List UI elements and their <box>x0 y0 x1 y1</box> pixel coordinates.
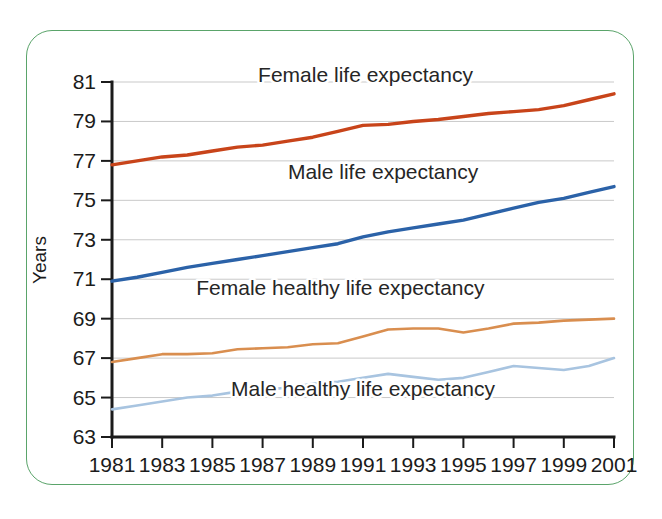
x-tick-label: 1981 <box>89 453 136 476</box>
x-tick-label: 1999 <box>540 453 587 476</box>
y-axis-title-label: Years <box>29 236 50 284</box>
y-axis-tick-labels: 63656769717375777981 <box>73 70 96 448</box>
line-chart: 63656769717375777981 1981198319851987198… <box>0 0 662 519</box>
y-tick-label: 81 <box>73 70 96 93</box>
x-tick-label: 1991 <box>340 453 387 476</box>
y-tick-label: 65 <box>73 386 96 409</box>
y-tick-label: 71 <box>73 267 96 290</box>
y-tick-label: 63 <box>73 425 96 448</box>
series-label-3: Male healthy life expectancy <box>231 377 495 400</box>
series-line-0 <box>112 94 614 165</box>
x-tick-label: 1993 <box>390 453 437 476</box>
y-tick-label: 69 <box>73 307 96 330</box>
y-tick-label: 73 <box>73 228 96 251</box>
x-tick-label: 1989 <box>289 453 336 476</box>
x-axis-tick-labels: 1981198319851987198919911993199519971999… <box>89 453 638 476</box>
y-axis-tick-marks <box>101 82 112 437</box>
x-tick-label: 1985 <box>189 453 236 476</box>
x-tick-label: 1983 <box>139 453 186 476</box>
y-tick-label: 75 <box>73 188 96 211</box>
x-tick-label: 1995 <box>440 453 487 476</box>
x-tick-label: 1997 <box>490 453 537 476</box>
y-tick-label: 77 <box>73 149 96 172</box>
chart-svg: 63656769717375777981 1981198319851987198… <box>0 0 662 519</box>
y-tick-label: 79 <box>73 109 96 132</box>
x-tick-label: 1987 <box>239 453 286 476</box>
series-label-2: Female healthy life expectancy <box>196 276 485 299</box>
x-axis-tick-marks <box>112 437 614 448</box>
series-label-1: Male life expectancy <box>288 160 479 183</box>
y-tick-label: 67 <box>73 346 96 369</box>
x-tick-label: 2001 <box>591 453 638 476</box>
figure-root: 63656769717375777981 1981198319851987198… <box>0 0 662 519</box>
series-line-2 <box>112 319 614 362</box>
data-series <box>112 94 614 410</box>
y-axis-title: Years <box>29 236 50 284</box>
series-label-0: Female life expectancy <box>258 63 473 86</box>
